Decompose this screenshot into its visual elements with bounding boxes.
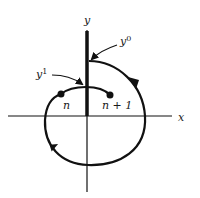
point-n1-label: n + 1 — [102, 99, 132, 112]
y0-pointer — [92, 45, 117, 59]
point-n-plus-1 — [107, 92, 114, 99]
arrow-right-icon — [128, 77, 139, 89]
y-axis-label: y — [83, 14, 91, 27]
y1-label: y1 — [35, 67, 47, 81]
y1-pointer — [52, 75, 82, 84]
point-n-label: n — [63, 99, 70, 112]
point-n — [58, 91, 65, 98]
trajectory-curve — [45, 61, 145, 165]
phase-diagram: y x y0 y1 n n + 1 — [0, 0, 200, 198]
x-axis-label: x — [178, 111, 185, 124]
y0-label: y0 — [119, 34, 131, 48]
